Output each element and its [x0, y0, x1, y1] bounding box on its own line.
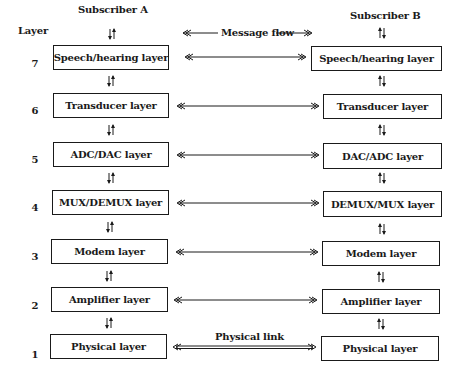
message-flow-arrow	[183, 30, 312, 36]
peer-arrow-layer-2	[174, 297, 317, 303]
a-vertical-arrows	[105, 28, 116, 329]
peer-arrow-layer-6	[177, 103, 319, 109]
b-vertical-arrows	[377, 27, 386, 330]
physical-link-arrow	[173, 344, 316, 350]
peer-arrow-layer-3	[176, 249, 318, 255]
peer-arrow-layer-4	[177, 200, 319, 206]
peer-arrow-layer-5	[177, 152, 319, 158]
peer-arrow-layer-7	[185, 54, 306, 60]
arrows-overlay	[0, 0, 459, 374]
